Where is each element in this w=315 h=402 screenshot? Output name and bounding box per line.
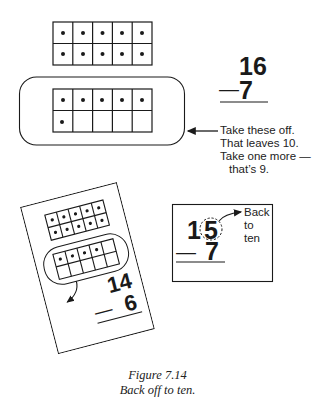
- full-ten-frame: [53, 22, 152, 65]
- problem-minus-sign: —: [219, 79, 239, 99]
- figure-caption-number: Figure 7.14: [0, 368, 315, 383]
- annotation-line: That leaves 10.: [220, 137, 299, 150]
- circled-ten-frame: [53, 89, 152, 132]
- back-to-ten-minus-sign: —: [176, 242, 196, 262]
- annotation-line: ten: [244, 232, 260, 245]
- back-to-ten-arrow-icon: [219, 212, 241, 221]
- annotation-line: to: [244, 219, 254, 232]
- figure-caption-title: Back off to ten.: [0, 383, 315, 398]
- annotation-line: Back: [244, 206, 270, 219]
- annotation-line: that’s 9.: [229, 163, 269, 176]
- problem-bottom-number: 7: [239, 78, 253, 103]
- back-to-ten-tens-digit: 1: [187, 218, 201, 243]
- back-to-ten-bottom-number: 7: [205, 239, 219, 264]
- annotation-line: Take one more —: [220, 150, 311, 163]
- annotation-line: Take these off.: [220, 124, 295, 137]
